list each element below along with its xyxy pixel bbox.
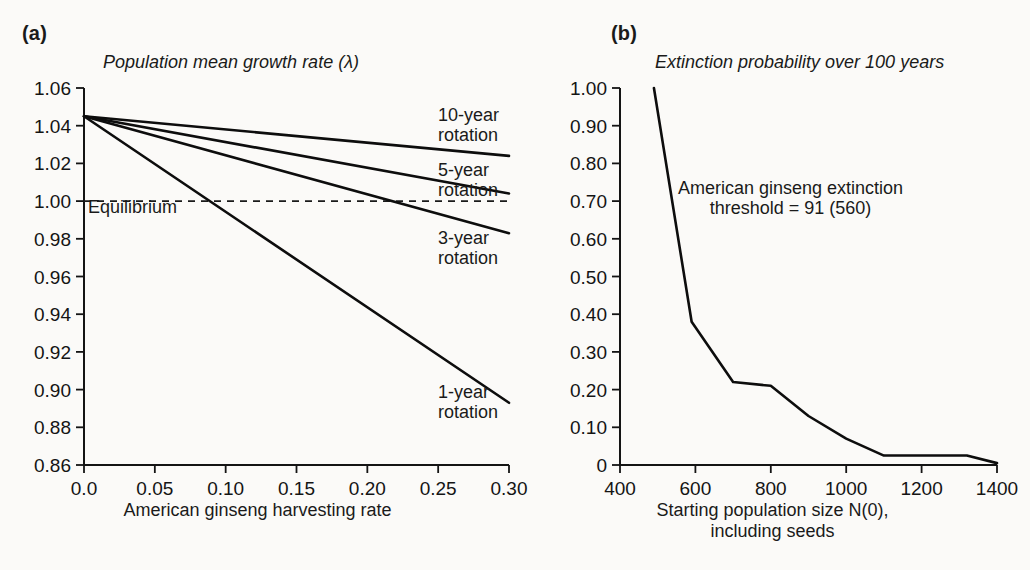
x-tick-label: 0.20	[349, 478, 386, 499]
panel-a-plot: 0.860.880.900.920.940.960.981.001.021.04…	[0, 0, 515, 570]
panel-b-plot: 00.100.200.300.400.500.600.700.800.901.0…	[515, 0, 1030, 570]
annotation-3-year-rotation: 3-year rotation	[438, 228, 498, 268]
annotation-5-year-rotation: 5-year rotation	[438, 160, 498, 200]
y-tick-label: 1.06	[34, 78, 71, 99]
y-tick-label: 0.60	[570, 229, 607, 250]
x-tick-label: 1200	[900, 478, 942, 499]
y-tick-label: 0.20	[570, 380, 607, 401]
y-tick-label: 0.90	[570, 116, 607, 137]
annotation-equilibrium: Equilibrium	[88, 197, 177, 217]
y-tick-label: 1.04	[34, 116, 71, 137]
y-tick-label: 0.86	[34, 455, 71, 476]
panel-a-xlabel: American ginseng harvesting rate	[0, 500, 515, 521]
series-line-extinction-probability	[654, 88, 997, 463]
x-tick-label: 1400	[976, 478, 1018, 499]
y-tick-label: 0.98	[34, 229, 71, 250]
y-tick-label: 0.92	[34, 342, 71, 363]
y-tick-label: 0.90	[34, 380, 71, 401]
y-tick-label: 1.00	[34, 191, 71, 212]
y-tick-label: 0.30	[570, 342, 607, 363]
y-tick-label: 0.10	[570, 417, 607, 438]
y-tick-label: 0.96	[34, 267, 71, 288]
x-tick-label: 800	[755, 478, 787, 499]
axis-lines	[620, 88, 997, 465]
x-tick-label: 0.10	[207, 478, 244, 499]
y-tick-label: 0.70	[570, 191, 607, 212]
annotation-10-year-rotation: 10-year rotation	[438, 105, 499, 145]
y-tick-label: 0	[596, 455, 607, 476]
x-tick-label: 400	[604, 478, 636, 499]
y-tick-label: 0.80	[570, 153, 607, 174]
x-tick-label: 0.15	[278, 478, 315, 499]
x-tick-label: 0.25	[420, 478, 457, 499]
annotation-extinction-threshold: American ginseng extinction threshold = …	[678, 178, 903, 218]
y-tick-label: 0.40	[570, 304, 607, 325]
figure-root: (a) Population mean growth rate (λ) 0.86…	[0, 0, 1030, 570]
y-tick-label: 1.02	[34, 153, 71, 174]
x-tick-label: 0.0	[71, 478, 97, 499]
y-tick-label: 1.00	[570, 78, 607, 99]
panel-a: (a) Population mean growth rate (λ) 0.86…	[0, 0, 515, 570]
y-tick-label: 0.50	[570, 267, 607, 288]
annotation-1-year-rotation: 1-year rotation	[438, 382, 498, 422]
x-tick-label: 1000	[825, 478, 867, 499]
x-tick-label: 600	[680, 478, 712, 499]
y-tick-label: 0.88	[34, 417, 71, 438]
y-tick-label: 0.94	[34, 304, 71, 325]
x-tick-label: 0.05	[136, 478, 173, 499]
panel-b-xlabel: Starting population size N(0), including…	[515, 500, 1030, 542]
panel-b: (b) Extinction probability over 100 year…	[515, 0, 1030, 570]
